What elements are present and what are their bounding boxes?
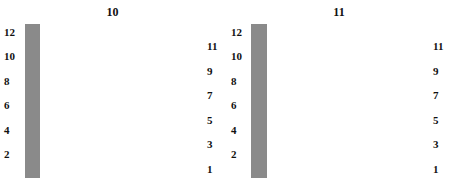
no-stitch-cell (39, 90, 40, 103)
no-stitch-cell (39, 64, 40, 77)
stitch-cell (266, 90, 267, 103)
grid-row (252, 25, 267, 38)
stitch-cell (266, 142, 267, 155)
row-number-right: 3 (433, 138, 439, 150)
grid-row (252, 168, 267, 179)
grid-row (26, 77, 40, 90)
grid-row (252, 103, 267, 116)
grid-row (252, 51, 267, 64)
grid-row (252, 142, 267, 155)
row-number-left: 6 (4, 99, 10, 111)
grid-row (252, 116, 267, 129)
grid-row (252, 90, 267, 103)
row-number-left: 8 (4, 75, 10, 87)
stitch-cell (266, 129, 267, 142)
grid-row (26, 90, 40, 103)
row-number-right: 1 (207, 163, 213, 175)
no-stitch-cell (39, 142, 40, 155)
row-number-right: 1 (433, 163, 439, 175)
row-number-right: 5 (433, 114, 439, 126)
stitch-cell (266, 116, 267, 129)
row-number-right: 5 (207, 114, 213, 126)
row-number-left: 4 (231, 124, 237, 136)
row-number-right: 9 (433, 65, 439, 77)
row-number-right: 9 (207, 65, 213, 77)
grid-row (26, 25, 40, 38)
grid-row (26, 38, 40, 51)
stitch-cell (266, 64, 267, 77)
grid-row (252, 38, 267, 51)
grid-row (26, 129, 40, 142)
row-number-left: 10 (4, 50, 15, 62)
grid-row (26, 51, 40, 64)
stitch-cell (266, 51, 267, 64)
grid-row (26, 168, 40, 179)
row-number-right: 7 (433, 89, 439, 101)
no-stitch-cell (39, 103, 40, 116)
stitch-cell (39, 25, 40, 38)
grid-row (26, 155, 40, 168)
chart-title: 11 (251, 5, 427, 20)
row-number-left: 12 (231, 26, 242, 38)
stitch-cell (266, 38, 267, 51)
chart-title: 10 (25, 5, 200, 20)
row-number-right: 11 (433, 40, 443, 52)
row-number-left: 12 (4, 26, 15, 38)
grid-row (26, 64, 40, 77)
row-number-left: 2 (231, 148, 237, 160)
row-number-left: 6 (231, 99, 237, 111)
grid-row (252, 64, 267, 77)
stitch-cell (266, 25, 267, 38)
stitch-cell (39, 38, 40, 51)
stitch-cell (266, 155, 267, 168)
stitch-grid (251, 24, 267, 178)
no-stitch-cell (39, 168, 40, 179)
stitch-grid (25, 24, 40, 178)
grid-row (26, 142, 40, 155)
grid-row (252, 129, 267, 142)
grid-row (252, 155, 267, 168)
no-stitch-cell (39, 129, 40, 142)
row-number-left: 2 (4, 148, 10, 160)
row-number-right: 11 (207, 40, 217, 52)
grid-row (26, 116, 40, 129)
row-number-left: 4 (4, 124, 10, 136)
stitch-cell (266, 77, 267, 90)
no-stitch-cell (39, 77, 40, 90)
no-stitch-cell (39, 51, 40, 64)
row-number-left: 8 (231, 75, 237, 87)
row-number-right: 7 (207, 89, 213, 101)
row-number-right: 3 (207, 138, 213, 150)
grid-row (26, 103, 40, 116)
grid-row (252, 77, 267, 90)
stitch-cell (266, 103, 267, 116)
no-stitch-cell (39, 155, 40, 168)
stitch-cell (266, 168, 267, 179)
no-stitch-cell (39, 116, 40, 129)
row-number-left: 10 (231, 50, 242, 62)
